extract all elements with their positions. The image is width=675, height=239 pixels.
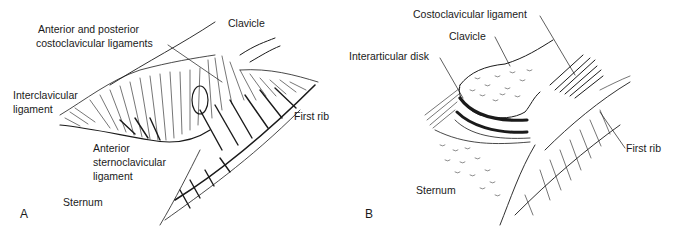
label-anterior-sternoclavicular-line1: Anterior xyxy=(93,142,130,155)
label-sternum-b: Sternum xyxy=(416,184,456,197)
label-clavicle-a: Clavicle xyxy=(228,17,265,30)
label-first-rib-a: First rib xyxy=(294,110,329,123)
label-costoclavicular-ligament-b: Costoclavicular ligament xyxy=(413,8,527,21)
label-interclavicular-line1: Interclavicular xyxy=(13,89,78,102)
panel-b-coronal-section: Costoclavicular ligament Clavicle Intera… xyxy=(335,0,675,239)
sternoclavicular-joint-anterior-illustration xyxy=(0,0,340,239)
label-sternum-a: Sternum xyxy=(63,196,103,209)
label-first-rib-b: First rib xyxy=(626,142,661,155)
label-anterior-sternoclavicular-line3: ligament xyxy=(93,170,133,183)
label-anterior-sternoclavicular-line2: sternoclavicular xyxy=(93,156,166,169)
panel-letter-a: A xyxy=(20,207,28,221)
label-interclavicular-line2: ligament xyxy=(13,103,53,116)
label-clavicle-b: Clavicle xyxy=(449,30,486,43)
label-anterior-posterior-costoclavicular-line1: Anterior and posterior xyxy=(38,23,139,36)
label-anterior-posterior-costoclavicular-line2: costoclavicular ligaments xyxy=(36,37,153,50)
label-interarticular-disk: Interarticular disk xyxy=(349,50,429,63)
sternoclavicular-joint-section-illustration xyxy=(335,0,675,239)
panel-a-anterior-view: Anterior and posterior costoclavicular l… xyxy=(0,0,340,239)
panel-letter-b: B xyxy=(365,207,373,221)
